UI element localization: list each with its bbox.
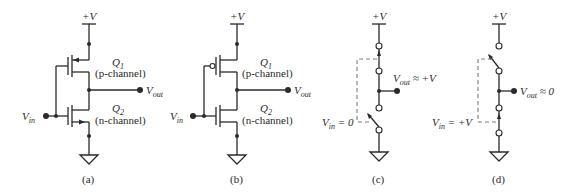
- junction-dot: [87, 134, 91, 138]
- panel-d: +V Vout ≈ 0 Vin = +V (d): [432, 10, 555, 186]
- supply-label: +V: [230, 10, 245, 22]
- caption-c: (c): [372, 173, 385, 186]
- switch-contact: [496, 68, 502, 74]
- caption-b: (b): [230, 173, 243, 186]
- supply-label: +V: [492, 10, 507, 22]
- vin-label: Vin: [22, 110, 35, 125]
- ground-icon: [80, 155, 98, 164]
- junction-dot: [235, 42, 239, 46]
- q2-n-channel-mosfet-icon: [194, 105, 237, 127]
- vout-terminal: [394, 88, 400, 94]
- vout-label: Vout: [146, 84, 164, 99]
- ground-icon: [490, 152, 508, 161]
- ground-icon: [370, 152, 388, 161]
- gate-linkage-dashed: [357, 59, 377, 122]
- cmos-inverter-figure: +V Vout Vin: [0, 0, 573, 194]
- vin-terminal: [190, 113, 196, 119]
- switch-contact: [376, 105, 382, 111]
- vout-label: Vout ≈ +V: [393, 72, 437, 87]
- q1-type-label: (p-channel): [95, 67, 146, 80]
- q2-type-label: (n-channel): [242, 114, 293, 127]
- switch-contact: [376, 127, 382, 133]
- supply-label: +V: [82, 10, 97, 22]
- caption-d: (d): [492, 173, 505, 186]
- vin-label: Vin = +V: [432, 116, 473, 131]
- junction-dot: [235, 134, 239, 138]
- q2-type-label: (n-channel): [95, 114, 146, 127]
- switch-contact: [496, 105, 502, 111]
- q1-type-label: (p-channel): [242, 67, 293, 80]
- supply-label: +V: [372, 10, 387, 22]
- vout-terminal: [285, 87, 291, 93]
- switch-contact: [496, 130, 502, 136]
- junction-dot: [54, 114, 58, 118]
- vin-terminal: [43, 113, 49, 119]
- junction-dot: [87, 42, 91, 46]
- vin-label: Vin: [170, 110, 183, 125]
- vout-terminal: [511, 88, 517, 94]
- junction-dot: [202, 114, 206, 118]
- vout-label: Vout ≈ 0: [520, 85, 555, 100]
- q2-n-channel-mosfet-icon: [47, 105, 89, 127]
- panel-b: +V Vout Vin Q1 (p-ch: [170, 10, 312, 186]
- caption-a: (a): [82, 173, 95, 186]
- switch-contact: [376, 68, 382, 74]
- panel-a: +V Vout Vin: [22, 10, 164, 186]
- switch-contact: [376, 43, 382, 49]
- switch-contact: [496, 43, 502, 49]
- ground-icon: [228, 155, 246, 164]
- panel-c: +V Vout ≈ +V Vin = 0 (c): [322, 10, 437, 186]
- vout-terminal: [137, 87, 143, 93]
- vout-label: Vout: [294, 84, 312, 99]
- vin-label: Vin = 0: [322, 116, 354, 131]
- gate-linkage-dashed: [478, 59, 497, 122]
